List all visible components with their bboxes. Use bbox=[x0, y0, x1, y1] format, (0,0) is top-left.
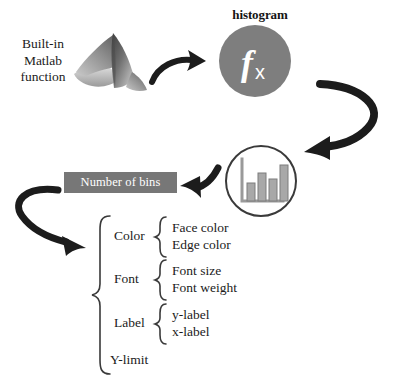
bar-chart-node[interactable] bbox=[225, 145, 297, 217]
source-label-line1: Built-in bbox=[8, 36, 78, 53]
property-edge-color: Edge color bbox=[172, 237, 231, 253]
function-title: histogram bbox=[205, 7, 315, 23]
property-y-label: y-label bbox=[172, 307, 209, 323]
property-font-size: Font size bbox=[172, 263, 221, 279]
bar-chart-icon bbox=[227, 147, 295, 215]
property-group-label-label: Label bbox=[114, 315, 145, 331]
histogram-function-node[interactable]: f x bbox=[219, 25, 291, 97]
property-group-color-label: Color bbox=[114, 228, 145, 244]
number-of-bins-node[interactable]: Number of bins bbox=[64, 172, 177, 193]
matlab-membrane-logo bbox=[72, 28, 150, 96]
source-label: Built-in Matlab function bbox=[8, 36, 78, 86]
property-group-ylimit-label: Y-limit bbox=[110, 352, 148, 368]
property-font-weight: Font weight bbox=[172, 280, 237, 296]
property-face-color: Face color bbox=[172, 220, 229, 236]
svg-text:x: x bbox=[255, 61, 265, 83]
svg-text:f: f bbox=[241, 43, 256, 83]
property-group-font-label: Font bbox=[114, 271, 139, 287]
source-label-line2: Matlab bbox=[8, 53, 78, 70]
source-label-line3: function bbox=[8, 69, 78, 86]
properties-tree: Color Font Label Y-limit Face color Edge… bbox=[88, 212, 268, 377]
property-x-label: x-label bbox=[172, 324, 209, 340]
fx-icon: f x bbox=[219, 25, 291, 97]
diagram-canvas: Built-in Matlab function bbox=[0, 0, 395, 385]
